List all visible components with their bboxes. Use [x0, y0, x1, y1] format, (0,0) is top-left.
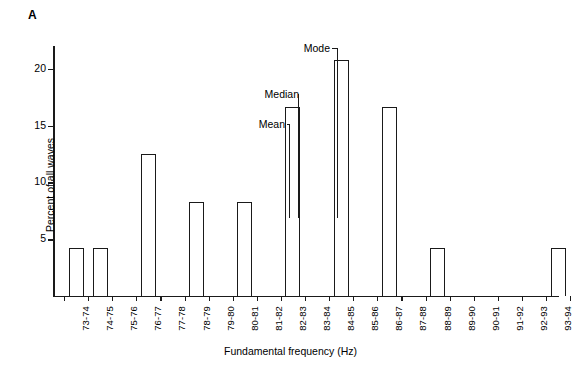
x-tick-label: 84-85 [345, 306, 356, 331]
x-tick-label: 87-88 [417, 306, 428, 331]
bar [69, 248, 84, 296]
x-tick-label: 92-93 [538, 306, 549, 331]
x-tick-label: 89-90 [466, 306, 477, 331]
x-tick-label: 93-94 [562, 306, 573, 331]
annotation-leader-vertical [337, 48, 338, 218]
y-tick-mark [48, 69, 53, 70]
x-tick-label: 79-80 [225, 306, 236, 331]
bar [334, 60, 349, 296]
x-tick-mark [401, 296, 402, 301]
x-tick-mark [112, 296, 113, 301]
x-tick-mark [474, 296, 475, 301]
x-tick-label: 78-79 [201, 306, 212, 331]
x-tick-label: 77-78 [176, 306, 187, 331]
bar [382, 107, 397, 296]
y-tick-mark [48, 239, 53, 240]
x-tick-mark [353, 296, 354, 301]
annotation-label-mean: Mean [53, 118, 285, 130]
x-tick-mark [64, 296, 65, 301]
annotation-leader-vertical [298, 94, 299, 218]
x-tick-label: 81-82 [273, 306, 284, 331]
x-tick-mark [209, 296, 210, 301]
x-tick-mark [426, 296, 427, 301]
x-tick-label: 74-75 [104, 306, 115, 331]
x-tick-mark [185, 296, 186, 301]
y-tick-mark [48, 182, 53, 183]
x-tick-label: 73-74 [80, 306, 91, 331]
x-tick-label: 76-77 [152, 306, 163, 331]
bar [551, 248, 566, 296]
x-tick-mark [498, 296, 499, 301]
y-tick-label: 20 [34, 62, 46, 74]
x-tick-label: 90-91 [490, 306, 501, 331]
x-axis-title: Fundamental frequency (Hz) [0, 345, 581, 357]
x-tick-mark [305, 296, 306, 301]
bar [237, 202, 252, 296]
bar [430, 248, 445, 296]
y-tick-label: 15 [34, 119, 46, 131]
figure-panel-a: A Percent of all waves 5101520 73-7474-7… [0, 0, 581, 373]
x-tick-label: 83-84 [321, 306, 332, 331]
bar [93, 248, 108, 296]
x-tick-label: 88-89 [442, 306, 453, 331]
annotation-label-median: Median [53, 88, 299, 100]
x-tick-mark [450, 296, 451, 301]
x-tick-mark [570, 296, 571, 301]
y-tick-label: 5 [40, 232, 46, 244]
panel-label: A [28, 8, 37, 22]
x-tick-label: 86-87 [393, 306, 404, 331]
x-tick-mark [377, 296, 378, 301]
y-tick-label: 10 [34, 175, 46, 187]
x-tick-label: 80-81 [249, 306, 260, 331]
x-tick-label: 82-83 [297, 306, 308, 331]
x-tick-mark [160, 296, 161, 301]
x-tick-mark [233, 296, 234, 301]
annotation-label-mode: Mode [53, 42, 330, 54]
x-tick-mark [329, 296, 330, 301]
bar [189, 202, 204, 296]
x-tick-mark [88, 296, 89, 301]
x-tick-label: 85-86 [369, 306, 380, 331]
x-tick-mark [546, 296, 547, 301]
x-tick-label: 91-92 [514, 306, 525, 331]
x-tick-mark [136, 296, 137, 301]
x-tick-mark [522, 296, 523, 301]
x-tick-mark [257, 296, 258, 301]
annotation-leader-vertical [289, 124, 290, 218]
x-tick-label: 75-76 [128, 306, 139, 331]
plot-area: Percent of all waves 5101520 73-7474-757… [53, 46, 559, 296]
x-tick-mark [281, 296, 282, 301]
bar [141, 154, 156, 296]
